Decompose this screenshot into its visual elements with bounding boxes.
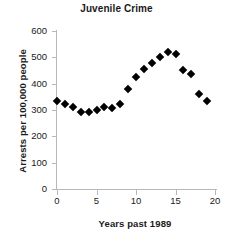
y-tick-label: 100 xyxy=(7,158,47,168)
x-tick-label: 0 xyxy=(45,196,69,206)
x-tick-label: 15 xyxy=(164,196,188,206)
y-tick-label: 400 xyxy=(7,79,47,89)
x-tick-label: 20 xyxy=(203,196,227,206)
x-tick-label: 5 xyxy=(85,196,109,206)
juvenile-crime-chart: Juvenile Crime Arrests per 100,000 peopl… xyxy=(0,0,233,242)
x-axis-label: Years past 1989 xyxy=(40,218,230,229)
y-tick-label: 300 xyxy=(7,105,47,115)
y-tick-label: 0 xyxy=(7,184,47,194)
chart-title: Juvenile Crime xyxy=(0,3,233,14)
y-tick-label: 200 xyxy=(7,131,47,141)
y-tick-label: 500 xyxy=(7,52,47,62)
y-tick-label: 600 xyxy=(7,26,47,36)
x-tick-label: 10 xyxy=(124,196,148,206)
